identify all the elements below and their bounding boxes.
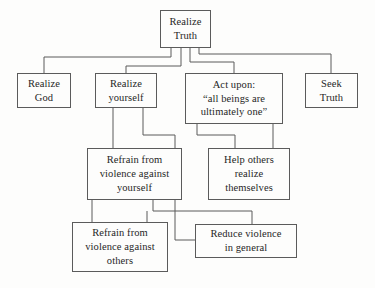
node-label-realize-truth: Realize Truth bbox=[161, 15, 210, 43]
connector-root-to-act-upon bbox=[190, 48, 234, 73]
node-realize-truth[interactable]: Realize Truth bbox=[160, 10, 211, 48]
connector-refrain-self-to-bus bbox=[153, 200, 252, 224]
node-label-realize-yourself: Realize yourself bbox=[96, 77, 156, 105]
node-label-realize-god: Realize God bbox=[18, 77, 70, 105]
flowchart-diagram: Realize TruthRealize GodRealize yourself… bbox=[0, 0, 375, 288]
node-label-seek-truth: Seek Truth bbox=[306, 77, 357, 105]
node-seek-truth[interactable]: Seek Truth bbox=[305, 73, 358, 108]
connector-root-to-realize-yourself bbox=[126, 48, 181, 73]
node-help-others[interactable]: Help others realize themselves bbox=[208, 148, 290, 200]
node-refrain-violence-others[interactable]: Refrain from violence against others bbox=[72, 222, 168, 272]
node-realize-yourself[interactable]: Realize yourself bbox=[95, 73, 157, 108]
node-label-reduce-violence: Reduce violence in general bbox=[196, 227, 296, 255]
node-reduce-violence[interactable]: Reduce violence in general bbox=[195, 224, 297, 258]
node-refrain-violence-self[interactable]: Refrain from violence against yourself bbox=[87, 148, 182, 200]
node-label-help-others: Help others realize themselves bbox=[209, 153, 289, 195]
connector-act-to-bus-left bbox=[197, 124, 235, 148]
node-label-act-upon: Act upon: “all beings are ultimately one… bbox=[186, 78, 282, 120]
node-act-upon[interactable]: Act upon: “all beings are ultimately one… bbox=[185, 73, 283, 124]
connector-root-to-seek-truth bbox=[199, 48, 331, 73]
node-label-refrain-violence-others: Refrain from violence against others bbox=[73, 226, 167, 268]
node-label-refrain-violence-self: Refrain from violence against yourself bbox=[88, 153, 181, 195]
connector-root-to-realize-god bbox=[44, 48, 171, 73]
node-realize-god[interactable]: Realize God bbox=[17, 73, 71, 108]
